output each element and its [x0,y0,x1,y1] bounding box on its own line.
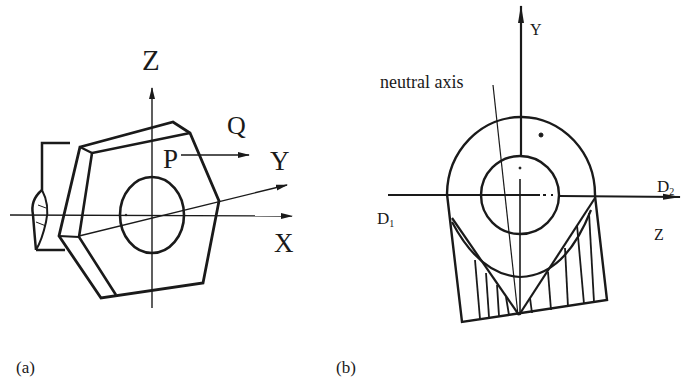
caption-b: (b) [336,358,356,377]
figure-a-labels: Z Q P Y X (a) [16,44,294,377]
label-q: Q [227,111,246,140]
label-d2: D2 [657,177,674,197]
label-x-a: X [274,228,294,258]
figure-b [388,6,680,322]
label-y-b: Y [530,21,542,38]
figure-a [10,88,292,308]
tool-shank [32,143,70,250]
caption-a: (a) [16,358,35,377]
lower-arc [452,210,591,277]
figure-canvas: Z Q P Y X (a) [0,0,691,385]
label-z-a: Z [142,44,160,76]
label-y-a: Y [270,146,290,176]
label-p: P [163,144,178,174]
x-axis-a [10,215,292,216]
label-neutral-axis: neutral axis [380,72,463,92]
label-d1: D1 [377,209,394,229]
label-z-b: Z [654,226,664,243]
